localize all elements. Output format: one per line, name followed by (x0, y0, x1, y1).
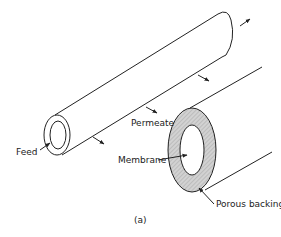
membrane-label: Membrane (118, 155, 167, 165)
permeate-label: Permeate (131, 118, 175, 128)
small-tube-inner-ellipse (50, 121, 66, 149)
permeate-arrow-icon (146, 107, 157, 113)
permeate-arrow-icon (93, 137, 104, 144)
small-tube-top-edge (55, 14, 218, 115)
membrane-tube-diagram: Feed Permeate Membrane Porous backing (a… (0, 0, 281, 237)
large-tube (168, 67, 272, 192)
porous-backing-leader-arrow-icon (199, 188, 214, 204)
small-tube-bottom-edge (62, 57, 222, 155)
ring-inner-ellipse (180, 125, 204, 175)
large-tube-top-edge (190, 67, 262, 108)
feed-label: Feed (16, 147, 37, 157)
exit-flow-arrow-icon (240, 19, 250, 26)
permeate-arrow-icon (198, 75, 209, 81)
small-tube-back-end (218, 12, 233, 57)
porous-backing-label: Porous backing (216, 199, 281, 209)
figure-caption: (a) (134, 215, 147, 225)
